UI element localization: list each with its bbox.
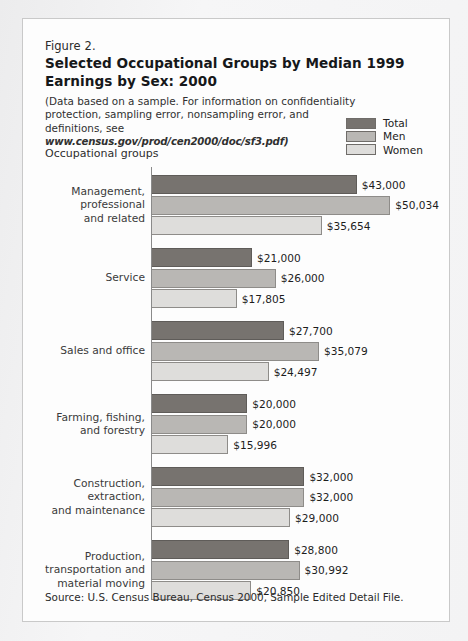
- category-label-line: Sales and office: [27, 344, 145, 357]
- bar-value-label: $50,034: [395, 199, 439, 211]
- category-label-line: Construction,: [27, 477, 145, 490]
- figure-number: Figure 2.: [45, 39, 96, 53]
- bar-row: $17,805: [152, 289, 286, 308]
- category-label-line: and related: [27, 212, 145, 225]
- bar-row: $20,000: [152, 394, 296, 413]
- bar-row: $28,800: [152, 540, 338, 559]
- bar-women: [152, 289, 237, 308]
- page-background: Figure 2. Selected Occupational Groups b…: [0, 0, 468, 641]
- category-label: Management,professionaland related: [27, 185, 145, 225]
- legend-label: Men: [383, 130, 405, 142]
- category-label-line: professional: [27, 198, 145, 211]
- bar-row: $20,000: [152, 415, 296, 434]
- bar-row: $35,654: [152, 216, 371, 235]
- bar-women: [152, 362, 269, 381]
- bar-row: $32,000: [152, 488, 353, 507]
- bar-women: [152, 216, 322, 235]
- category-label-line: material moving: [27, 577, 145, 590]
- bar-value-label: $35,079: [324, 345, 368, 357]
- bar-total: [152, 540, 289, 559]
- bar-row: $15,996: [152, 435, 277, 454]
- figure-note-url[interactable]: www.census.gov/prod/cen2000/doc/sf3.pdf): [45, 136, 288, 147]
- bar-men: [152, 342, 319, 361]
- bar-row: $24,497: [152, 362, 317, 381]
- axis-title: Occupational groups: [45, 147, 159, 160]
- figure-title: Selected Occupational Groups by Median 1…: [45, 55, 435, 90]
- bar-total: [152, 394, 247, 413]
- figure-note: (Data based on a sample. For information…: [45, 95, 365, 149]
- category-label-line: Farming, fishing,: [27, 411, 145, 424]
- bar-men: [152, 269, 276, 288]
- bar-row: $26,000: [152, 269, 325, 288]
- legend-label: Women: [383, 144, 423, 156]
- legend-swatch-women: [346, 144, 376, 155]
- bar-men: [152, 415, 247, 434]
- legend-item-women: Women: [346, 143, 456, 156]
- legend-swatch-total: [346, 118, 376, 129]
- bar-total: [152, 175, 357, 194]
- legend-item-total: Total: [346, 117, 456, 130]
- bar-value-label: $35,654: [327, 220, 371, 232]
- bar-row: $43,000: [152, 175, 406, 194]
- bar-row: $27,700: [152, 321, 333, 340]
- bar-row: $32,000: [152, 467, 353, 486]
- bar-value-label: $32,000: [309, 471, 353, 483]
- bar-value-label: $43,000: [362, 179, 406, 191]
- bar-total: [152, 467, 304, 486]
- bar-value-label: $28,800: [294, 544, 338, 556]
- bar-men: [152, 196, 390, 215]
- bar-value-label: $29,000: [295, 512, 339, 524]
- category-label-line: extraction,: [27, 490, 145, 503]
- bar-value-label: $27,700: [289, 325, 333, 337]
- bar-total: [152, 321, 284, 340]
- bar-men: [152, 561, 300, 580]
- category-label: Construction,extraction,and maintenance: [27, 477, 145, 517]
- bar-value-label: $24,497: [274, 366, 318, 378]
- category-label: Farming, fishing,and forestry: [27, 411, 145, 437]
- legend-swatch-men: [346, 131, 376, 142]
- chart-legend: TotalMenWomen: [346, 117, 456, 157]
- bar-value-label: $30,992: [305, 564, 349, 576]
- bar-row: $30,992: [152, 561, 348, 580]
- bar-value-label: $17,805: [242, 293, 286, 305]
- bar-men: [152, 488, 304, 507]
- bar-value-label: $21,000: [257, 252, 301, 264]
- bar-group: $21,000$26,000$17,805Service: [23, 248, 451, 308]
- bar-group: $43,000$50,034$35,654Management,professi…: [23, 175, 451, 235]
- category-label-line: Management,: [27, 185, 145, 198]
- bar-women: [152, 435, 228, 454]
- bar-value-label: $26,000: [281, 272, 325, 284]
- bar-row: $50,034: [152, 196, 439, 215]
- category-label-line: and maintenance: [27, 504, 145, 517]
- bar-value-label: $20,000: [252, 398, 296, 410]
- category-label-line: Service: [27, 271, 145, 284]
- bar-group: $27,700$35,079$24,497Sales and office: [23, 321, 451, 381]
- bar-row: $29,000: [152, 508, 339, 527]
- bar-group: $32,000$32,000$29,000Construction,extrac…: [23, 467, 451, 527]
- bar-total: [152, 248, 252, 267]
- bar-row: $35,079: [152, 342, 368, 361]
- bar-group: $20,000$20,000$15,996Farming, fishing,an…: [23, 394, 451, 454]
- category-label: Production,transportation andmaterial mo…: [27, 550, 145, 590]
- bar-value-label: $15,996: [233, 439, 277, 451]
- bar-row: $21,000: [152, 248, 301, 267]
- category-label: Service: [27, 271, 145, 284]
- source-note: Source: U.S. Census Bureau, Census 2000,…: [45, 591, 404, 603]
- bar-value-label: $20,000: [252, 418, 296, 430]
- category-label-line: transportation and: [27, 563, 145, 576]
- chart-plot-area: $43,000$50,034$35,654Management,professi…: [23, 167, 451, 587]
- category-label-line: and forestry: [27, 424, 145, 437]
- bar-women: [152, 508, 290, 527]
- category-label-line: Production,: [27, 550, 145, 563]
- legend-item-men: Men: [346, 130, 456, 143]
- category-label: Sales and office: [27, 344, 145, 357]
- legend-label: Total: [383, 117, 408, 129]
- figure-card: Figure 2. Selected Occupational Groups b…: [22, 18, 450, 622]
- bar-value-label: $32,000: [309, 491, 353, 503]
